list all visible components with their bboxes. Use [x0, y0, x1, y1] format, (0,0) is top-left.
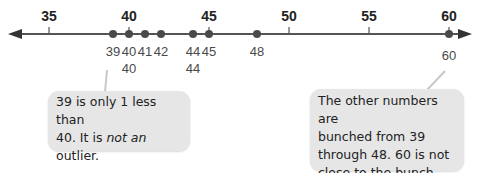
callout-right-line3: through 48. 60 is not [318, 146, 456, 164]
point-label: 40 [122, 61, 136, 76]
right-arrow-icon [458, 29, 472, 39]
point-label: 45 [202, 44, 216, 59]
point-label: 42 [154, 44, 168, 59]
point-label: 44 [186, 61, 200, 76]
point-label: 41 [138, 44, 152, 59]
callout-right-line1: The other numbers are [318, 92, 456, 128]
tick-label-55: 55 [361, 8, 377, 24]
left-arrow-icon [8, 29, 22, 39]
point-label: 60 [442, 48, 456, 63]
callout-right-line4: close to the bunch. [318, 164, 456, 173]
point-label: 39 [106, 44, 120, 59]
callout-left: 39 is only 1 less than 40. It is not an … [48, 91, 190, 151]
point-label: 40 [122, 44, 136, 59]
callout-left-line1: 39 is only 1 less than [56, 93, 182, 129]
tick-label-45: 45 [201, 8, 217, 24]
callout-left-line2: 40. It is not an [56, 129, 182, 147]
tick-label-40: 40 [121, 8, 137, 24]
callout-right: The other numbers are bunched from 39 th… [310, 89, 464, 171]
tick-label-35: 35 [41, 8, 57, 24]
tick-label-60: 60 [441, 8, 457, 24]
dot-plot-diagram: 35 40 45 50 55 60 39 40 41 42 44 45 48 6… [0, 0, 479, 173]
point-label: 48 [250, 44, 264, 59]
point-label: 44 [186, 44, 200, 59]
callout-right-line2: bunched from 39 [318, 128, 456, 146]
callout-left-line3: outlier. [56, 147, 182, 165]
tick-label-50: 50 [281, 8, 297, 24]
left-leader-line [105, 70, 107, 92]
